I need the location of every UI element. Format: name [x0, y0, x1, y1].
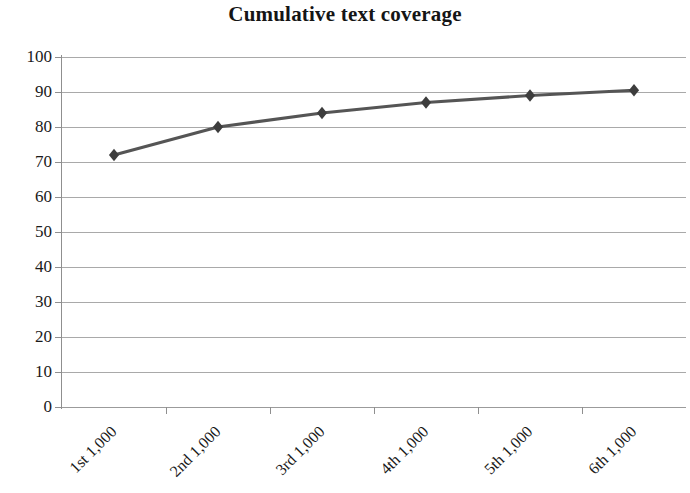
x-axis-category-label: 6th 1,000	[543, 423, 639, 493]
cumulative-text-coverage-chart: Cumulative text coverage 010203040506070…	[0, 0, 690, 493]
x-axis-category-label: 2nd 1,000	[127, 423, 223, 493]
x-axis-category-label: 4th 1,000	[335, 423, 431, 493]
x-axis-category-label: 1st 1,000	[23, 423, 119, 493]
x-axis-category-label: 3rd 1,000	[231, 423, 327, 493]
x-axis-category-label: 5th 1,000	[439, 423, 535, 493]
x-axis-category-labels: 1st 1,0002nd 1,0003rd 1,0004th 1,0005th …	[0, 0, 690, 493]
